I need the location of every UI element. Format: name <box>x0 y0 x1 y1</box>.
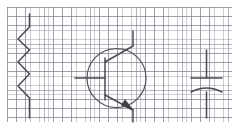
transistor-emitter-arrow-icon <box>122 100 134 111</box>
symbol-capacitor[interactable] <box>191 50 222 118</box>
symbol-resistor[interactable] <box>18 14 30 118</box>
screenshot-canvas <box>0 0 239 127</box>
symbol-transistor-npn[interactable] <box>75 31 146 122</box>
circuit-symbols-drawing <box>0 0 239 127</box>
resistor-zigzag <box>18 27 30 98</box>
